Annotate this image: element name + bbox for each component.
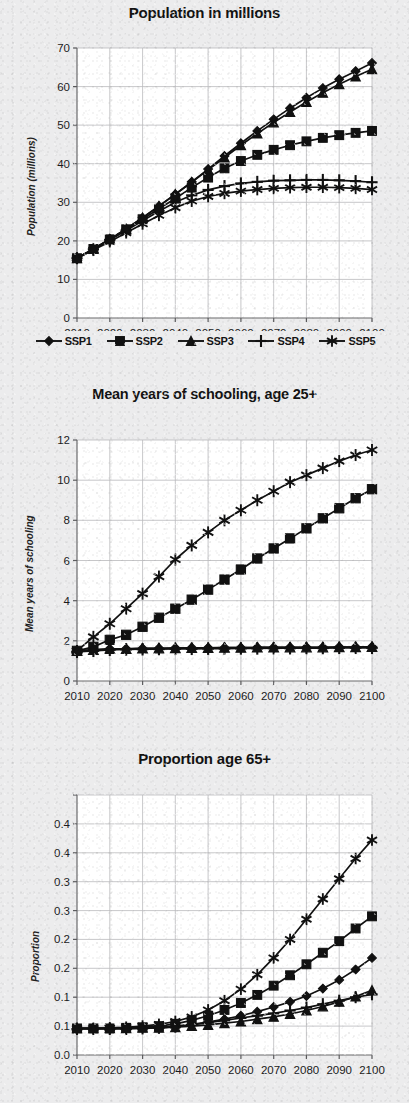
square-marker [318,514,327,523]
x-axis-tick-label: 2060 [228,690,254,702]
x-axis-tick-label: 2080 [294,1064,320,1076]
square-marker [154,613,163,622]
legend-item-ssp5[interactable]: SSP5 [317,333,375,349]
square-marker [138,622,147,631]
x-axis-tick-label: 2050 [195,327,221,331]
square-marker [318,948,327,957]
x-axis-tick-label: 2010 [64,327,90,331]
legend-item-label: SSP5 [348,335,375,347]
x-axis-tick-label: 2090 [326,1064,352,1076]
y-axis-tick-label: 0.1 [54,1020,70,1032]
square-marker [286,971,295,980]
legend-item-ssp1[interactable]: SSP1 [34,333,92,349]
x-axis-tick-label: 2090 [326,327,352,331]
y-axis-tick-label: 60 [57,81,70,93]
x-axis-tick-label: 2070 [261,1064,287,1076]
square-marker [171,604,180,613]
chart-svg-population: 0102030405060702010202020302040205020602… [0,21,409,331]
square-marker [368,912,377,921]
square-marker [253,150,262,159]
x-axis-tick-label: 2010 [64,1064,90,1076]
y-axis-tick-label: 30 [57,196,70,208]
y-axis-label-proportion: Proportion [30,931,41,982]
x-axis-tick-label: 2020 [97,327,123,331]
square-marker [285,534,294,543]
square-marker [368,127,377,136]
y-axis-tick-label: 20 [57,235,70,247]
x-axis-tick-label: 2070 [261,327,287,331]
square-marker [351,924,360,933]
page-title: Mean years of schooling, age 25+ [0,378,409,402]
square-marker [122,630,131,639]
square-marker [351,128,360,137]
chart-legend: SSP1SSP2SSP3SSP4SSP5 [0,333,409,349]
x-axis-tick-label: 2080 [294,690,320,702]
square-marker [318,133,327,142]
square-marker [335,131,344,140]
square-marker [367,485,376,494]
square-marker [236,999,245,1008]
square-marker [204,585,213,594]
legend-item-label: SSP3 [207,335,234,347]
page-title: Population in millions [0,0,409,21]
y-axis-label-population: Population (millions) [26,137,37,236]
plus-marker [246,333,276,349]
square-marker [335,504,344,513]
x-axis-tick-label: 2030 [130,1064,156,1076]
y-axis-tick-label: 0.2 [54,933,70,945]
y-axis-tick-label: 40 [57,158,70,170]
x-axis-tick-label: 2060 [228,327,254,331]
x-axis-tick-label: 2100 [359,1064,385,1076]
square-marker [269,544,278,553]
chart-panel-population: Population in millions Population (milli… [0,0,409,378]
chart-svg-schooling: 0246810122010202020302040205020602070208… [0,402,409,732]
x-axis-tick-label: 2090 [326,690,352,702]
x-axis-tick-label: 2050 [195,690,221,702]
square-marker [236,565,245,574]
y-axis-tick-label: 8 [64,514,70,526]
plot-area-population: Population (millions) 010203040506070201… [0,21,409,331]
square-marker [351,494,360,503]
x-axis-tick-label: 2060 [228,1064,254,1076]
y-axis-tick-label: 0 [64,312,70,324]
y-axis-tick-label: 0.3 [54,876,70,888]
square-marker [105,333,135,349]
x-axis-tick-label: 2070 [261,690,287,702]
legend-item-ssp2[interactable]: SSP2 [105,333,163,349]
page-title: Proportion age 65+ [0,740,409,767]
x-axis-tick-label: 2100 [359,327,385,331]
y-axis-tick-label: 0.2 [54,962,70,974]
y-axis-tick-label: 0.0 [54,1049,70,1061]
square-marker [302,524,311,533]
x-axis-tick-label: 2040 [163,690,189,702]
y-axis-tick-label: 0.4 [54,818,71,830]
y-axis-tick-label: 4 [64,595,71,607]
y-axis-tick-label: 70 [57,42,70,54]
plot-area-proportion: Proportion 0.00.10.10.20.20.30.30.40.420… [0,767,409,1097]
x-axis-tick-label: 2020 [97,690,123,702]
square-marker [187,595,196,604]
x-axis-tick-label: 2020 [97,1064,123,1076]
y-axis-tick-label: 0.4 [54,847,71,859]
legend-item-ssp4[interactable]: SSP4 [246,333,304,349]
legend-item-ssp3[interactable]: SSP3 [176,333,234,349]
square-marker [302,137,311,146]
diamond-marker [34,333,64,349]
square-marker [335,937,344,946]
chart-panel-schooling: Mean years of schooling, age 25+ Mean ye… [0,378,409,740]
y-axis-tick-label: 0.1 [54,991,70,1003]
asterisk-marker [317,333,347,349]
x-axis-tick-label: 2010 [64,690,90,702]
y-axis-tick-label: 12 [57,434,70,446]
square-marker [115,337,124,346]
diamond-marker [44,337,53,346]
y-axis-tick-label: 2 [64,635,70,647]
x-axis-tick-label: 2100 [359,690,385,702]
y-axis-tick-label: 10 [57,474,70,486]
square-marker [253,554,262,563]
x-axis-tick-label: 2040 [163,327,189,331]
chart-panel-proportion: Proportion age 65+ Proportion 0.00.10.10… [0,740,409,1103]
x-axis-tick-label: 2040 [163,1064,189,1076]
square-marker [286,141,295,150]
square-marker [302,960,311,969]
